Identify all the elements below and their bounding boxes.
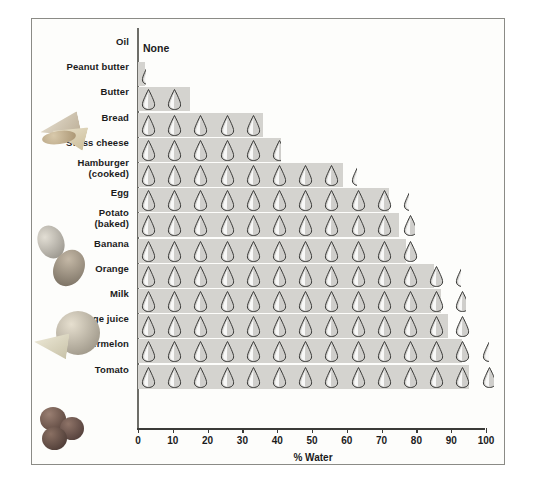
row-label-text: Bread — [102, 112, 129, 123]
water-drop-icon — [141, 291, 156, 312]
drop-row-bread — [139, 113, 264, 138]
water-drop-partial-icon — [403, 215, 415, 236]
drop-row-orange — [139, 264, 435, 289]
water-drop-icon — [167, 341, 182, 362]
drop-row-swiss-cheese — [139, 138, 282, 163]
x-tick-10 — [173, 428, 174, 433]
water-drop-icon — [220, 140, 235, 161]
water-drop-icon — [377, 266, 392, 287]
row-label-text: Tomato — [95, 364, 129, 375]
water-drop-icon — [220, 190, 235, 211]
water-drop-icon — [403, 266, 418, 287]
row-label-text: Oil — [116, 36, 129, 47]
water-drop-icon — [455, 316, 470, 337]
row-label-tomato: Tomato — [29, 365, 129, 376]
x-tick-20 — [208, 428, 209, 433]
row-label-butter: Butter — [29, 87, 129, 98]
row-label-milk: Milk — [29, 289, 129, 300]
water-drop-icon — [246, 291, 261, 312]
water-drop-icon — [167, 266, 182, 287]
water-drop-partial-icon — [141, 64, 146, 85]
water-drop-icon — [193, 190, 208, 211]
x-tick-80 — [416, 428, 417, 433]
x-axis-label: % Water — [137, 452, 489, 463]
row-label-hamburger: Hamburger(cooked) — [29, 158, 129, 179]
drop-row-milk — [139, 289, 442, 314]
row-label-peanut-butter: Peanut butter — [29, 62, 129, 73]
water-drop-icon — [377, 341, 392, 362]
x-tick-label-0: 0 — [123, 435, 153, 446]
water-drop-icon — [193, 115, 208, 136]
water-drop-icon — [141, 341, 156, 362]
water-drop-icon — [403, 316, 418, 337]
row-label-swiss-cheese: Swiss cheese — [29, 138, 129, 149]
row-label-text: Watermelon — [74, 338, 129, 349]
water-drop-icon — [220, 367, 235, 388]
row-label-text: Hamburger — [77, 157, 129, 168]
water-drop-icon — [324, 266, 339, 287]
water-drop-icon — [141, 316, 156, 337]
water-drop-icon — [403, 341, 418, 362]
water-drop-icon — [141, 266, 156, 287]
drop-row-hamburger — [139, 163, 344, 188]
tomato-photo-2 — [60, 417, 84, 440]
water-drop-icon — [220, 241, 235, 262]
water-drop-icon — [324, 190, 339, 211]
water-drop-icon — [220, 165, 235, 186]
water-drop-icon — [193, 165, 208, 186]
water-drop-icon — [377, 215, 392, 236]
row-label-potato: Potato(baked) — [29, 208, 129, 229]
water-drop-icon — [298, 341, 313, 362]
drop-row-banana — [139, 239, 407, 264]
water-drop-icon — [141, 241, 156, 262]
row-label-orange: Orange — [29, 264, 129, 275]
water-drop-icon — [351, 341, 366, 362]
water-drop-icon — [429, 291, 444, 312]
water-drop-icon — [298, 215, 313, 236]
water-drop-icon — [167, 165, 182, 186]
water-drop-icon — [193, 241, 208, 262]
water-drop-icon — [246, 165, 261, 186]
water-drop-icon — [351, 215, 366, 236]
water-drop-icon — [272, 341, 287, 362]
water-drop-icon — [324, 316, 339, 337]
x-tick-label-30: 30 — [227, 435, 257, 446]
water-drop-icon — [298, 241, 313, 262]
water-drop-icon — [298, 165, 313, 186]
water-drop-icon — [167, 215, 182, 236]
water-drop-icon — [272, 291, 287, 312]
water-drop-icon — [455, 367, 470, 388]
x-tick-60 — [347, 428, 348, 433]
row-label-subtext: (cooked) — [29, 169, 129, 180]
drop-row-egg — [139, 188, 390, 213]
x-tick-0 — [138, 428, 139, 433]
water-drop-icon — [193, 215, 208, 236]
x-tick-label-80: 80 — [401, 435, 431, 446]
row-label-subtext: (baked) — [29, 219, 129, 230]
water-drop-icon — [324, 291, 339, 312]
water-drop-partial-icon — [167, 89, 181, 110]
water-drop-partial-icon — [272, 140, 281, 161]
water-drop-icon — [193, 367, 208, 388]
row-label-oil: Oil — [29, 37, 129, 48]
water-drop-icon — [141, 215, 156, 236]
water-drop-icon — [298, 367, 313, 388]
x-tick-label-50: 50 — [297, 435, 327, 446]
water-drop-partial-icon — [455, 266, 461, 287]
water-drop-icon — [429, 367, 444, 388]
oil-none-label: None — [143, 42, 169, 54]
water-drop-icon — [141, 140, 156, 161]
x-tick-100 — [486, 428, 487, 433]
row-label-text: Egg — [111, 187, 129, 198]
water-drop-icon — [429, 341, 444, 362]
water-drop-icon — [220, 291, 235, 312]
row-label-orange-juice: Orange juice — [29, 314, 129, 325]
water-drop-icon — [246, 115, 261, 136]
water-drop-icon — [403, 367, 418, 388]
drop-row-oil — [139, 37, 140, 62]
water-drop-icon — [246, 316, 261, 337]
water-drop-icon — [193, 341, 208, 362]
row-label-text: Swiss cheese — [66, 137, 129, 148]
water-drop-icon — [246, 190, 261, 211]
water-drop-icon — [377, 291, 392, 312]
